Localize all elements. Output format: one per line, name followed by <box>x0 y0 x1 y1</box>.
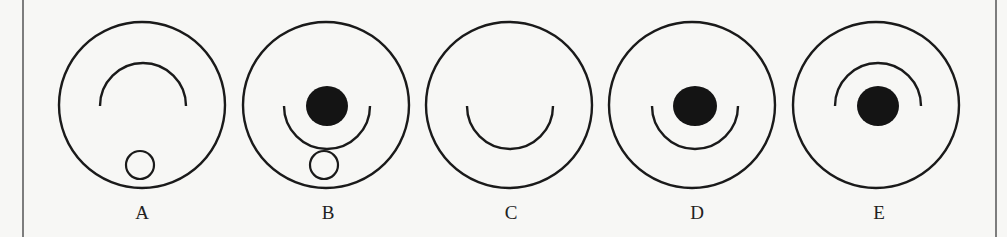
option-d[interactable]: D <box>609 22 775 223</box>
outer-circle <box>426 22 592 188</box>
option-b[interactable]: B <box>243 22 409 223</box>
small-hollow-circle-icon <box>126 151 154 179</box>
filled-dot-icon <box>306 86 348 126</box>
diagram-canvas: A B C D E <box>0 0 1007 237</box>
option-c[interactable]: C <box>426 22 592 223</box>
answer-options-figure: A B C D E <box>0 0 1007 237</box>
option-label: B <box>322 202 335 223</box>
option-label: E <box>873 202 885 223</box>
option-label: C <box>505 202 518 223</box>
filled-dot-icon <box>673 86 717 126</box>
option-e[interactable]: E <box>793 22 959 223</box>
small-hollow-circle-icon <box>310 151 338 179</box>
arc-opening-up-icon <box>467 106 553 149</box>
option-label: D <box>690 202 704 223</box>
option-a[interactable]: A <box>59 22 225 223</box>
arc-opening-down-icon <box>100 63 186 106</box>
filled-dot-icon <box>857 86 899 126</box>
outer-circle <box>59 22 225 188</box>
option-label: A <box>135 202 149 223</box>
